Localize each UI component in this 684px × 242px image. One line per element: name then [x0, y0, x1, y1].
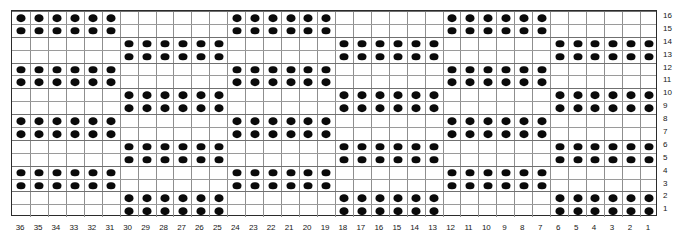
chart-cell-filled[interactable]: [622, 205, 640, 217]
chart-cell-filled[interactable]: [227, 115, 245, 127]
chart-cell-filled[interactable]: [568, 205, 586, 217]
chart-cell-empty[interactable]: [317, 38, 335, 50]
chart-cell-filled[interactable]: [191, 154, 209, 166]
chart-cell-empty[interactable]: [568, 180, 586, 192]
chart-cell-empty[interactable]: [443, 141, 461, 153]
chart-cell-filled[interactable]: [640, 102, 658, 114]
chart-cell-filled[interactable]: [245, 25, 263, 37]
chart-cell-filled[interactable]: [496, 180, 514, 192]
chart-cell-filled[interactable]: [550, 154, 568, 166]
chart-cell-filled[interactable]: [12, 64, 30, 76]
chart-cell-filled[interactable]: [120, 102, 138, 114]
chart-cell-filled[interactable]: [460, 12, 478, 24]
chart-cell-filled[interactable]: [209, 38, 227, 50]
chart-cell-empty[interactable]: [138, 76, 156, 88]
chart-cell-filled[interactable]: [407, 89, 425, 101]
chart-cell-empty[interactable]: [102, 154, 120, 166]
chart-cell-empty[interactable]: [84, 141, 102, 153]
chart-cell-filled[interactable]: [586, 51, 604, 63]
chart-cell-filled[interactable]: [640, 205, 658, 217]
chart-cell-empty[interactable]: [335, 128, 353, 140]
chart-cell-empty[interactable]: [317, 141, 335, 153]
chart-cell-filled[interactable]: [550, 89, 568, 101]
chart-cell-filled[interactable]: [586, 102, 604, 114]
chart-cell-filled[interactable]: [622, 141, 640, 153]
chart-cell-filled[interactable]: [496, 64, 514, 76]
chart-cell-filled[interactable]: [263, 180, 281, 192]
chart-cell-filled[interactable]: [120, 154, 138, 166]
chart-cell-empty[interactable]: [425, 115, 443, 127]
chart-cell-empty[interactable]: [478, 192, 496, 204]
chart-cell-empty[interactable]: [443, 38, 461, 50]
chart-cell-empty[interactable]: [407, 25, 425, 37]
chart-cell-empty[interactable]: [30, 141, 48, 153]
chart-cell-empty[interactable]: [317, 205, 335, 217]
chart-cell-empty[interactable]: [568, 128, 586, 140]
chart-cell-filled[interactable]: [496, 12, 514, 24]
chart-cell-empty[interactable]: [263, 141, 281, 153]
chart-cell-filled[interactable]: [156, 141, 174, 153]
chart-cell-filled[interactable]: [48, 12, 66, 24]
chart-cell-filled[interactable]: [407, 38, 425, 50]
chart-cell-empty[interactable]: [48, 89, 66, 101]
chart-cell-empty[interactable]: [425, 25, 443, 37]
chart-cell-empty[interactable]: [245, 141, 263, 153]
chart-cell-empty[interactable]: [353, 25, 371, 37]
chart-cell-filled[interactable]: [191, 205, 209, 217]
chart-cell-empty[interactable]: [550, 64, 568, 76]
chart-cell-empty[interactable]: [425, 180, 443, 192]
chart-cell-empty[interactable]: [299, 192, 317, 204]
chart-cell-filled[interactable]: [407, 154, 425, 166]
chart-cell-empty[interactable]: [460, 89, 478, 101]
chart-cell-filled[interactable]: [443, 128, 461, 140]
chart-cell-filled[interactable]: [586, 205, 604, 217]
chart-cell-filled[interactable]: [514, 180, 532, 192]
chart-cell-filled[interactable]: [514, 167, 532, 179]
chart-cell-filled[interactable]: [425, 141, 443, 153]
chart-cell-filled[interactable]: [66, 128, 84, 140]
chart-cell-empty[interactable]: [209, 25, 227, 37]
chart-cell-filled[interactable]: [66, 167, 84, 179]
chart-cell-filled[interactable]: [443, 180, 461, 192]
chart-cell-empty[interactable]: [317, 102, 335, 114]
chart-cell-filled[interactable]: [245, 64, 263, 76]
chart-cell-filled[interactable]: [335, 192, 353, 204]
chart-cell-empty[interactable]: [622, 12, 640, 24]
chart-cell-empty[interactable]: [604, 76, 622, 88]
chart-cell-filled[interactable]: [640, 89, 658, 101]
chart-cell-empty[interactable]: [66, 192, 84, 204]
chart-cell-empty[interactable]: [478, 141, 496, 153]
chart-cell-empty[interactable]: [389, 76, 407, 88]
chart-cell-filled[interactable]: [263, 12, 281, 24]
chart-cell-empty[interactable]: [263, 89, 281, 101]
chart-cell-empty[interactable]: [317, 192, 335, 204]
chart-cell-filled[interactable]: [48, 76, 66, 88]
chart-cell-empty[interactable]: [353, 128, 371, 140]
chart-cell-filled[interactable]: [156, 192, 174, 204]
chart-cell-empty[interactable]: [586, 167, 604, 179]
chart-cell-empty[interactable]: [460, 102, 478, 114]
chart-cell-empty[interactable]: [173, 128, 191, 140]
chart-cell-empty[interactable]: [156, 12, 174, 24]
chart-cell-empty[interactable]: [138, 128, 156, 140]
chart-cell-filled[interactable]: [514, 64, 532, 76]
chart-cell-filled[interactable]: [30, 167, 48, 179]
chart-cell-empty[interactable]: [102, 38, 120, 50]
chart-cell-filled[interactable]: [460, 64, 478, 76]
chart-cell-filled[interactable]: [209, 102, 227, 114]
chart-cell-empty[interactable]: [66, 154, 84, 166]
chart-cell-empty[interactable]: [30, 102, 48, 114]
chart-cell-empty[interactable]: [317, 154, 335, 166]
chart-cell-filled[interactable]: [568, 51, 586, 63]
chart-cell-filled[interactable]: [299, 76, 317, 88]
chart-cell-empty[interactable]: [389, 180, 407, 192]
chart-cell-filled[interactable]: [48, 167, 66, 179]
chart-cell-filled[interactable]: [622, 192, 640, 204]
chart-cell-empty[interactable]: [102, 192, 120, 204]
chart-cell-filled[interactable]: [245, 167, 263, 179]
chart-cell-filled[interactable]: [532, 115, 550, 127]
chart-cell-filled[interactable]: [371, 102, 389, 114]
chart-cell-filled[interactable]: [30, 76, 48, 88]
chart-cell-empty[interactable]: [173, 180, 191, 192]
chart-cell-filled[interactable]: [443, 12, 461, 24]
